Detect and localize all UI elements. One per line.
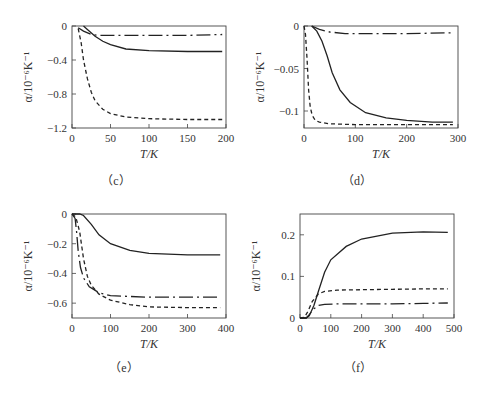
y-tick-label: −0.2 [47, 238, 67, 250]
y-axis-label: α/10⁻⁶K⁻¹ [253, 51, 267, 102]
plot-frame [300, 214, 454, 318]
y-tick-label: 0 [290, 312, 296, 324]
panel-label-e: （e） [109, 361, 138, 375]
y-axis-label: α/10⁻⁶K⁻¹ [249, 240, 263, 291]
y-tick-label: 0 [62, 20, 68, 32]
chart-panel-e: 01002003004000−0.2−0.4−0.6T/Kα/10⁻⁶K⁻¹ [21, 208, 235, 351]
plot-frame [72, 26, 226, 128]
x-tick-label: 150 [179, 132, 196, 144]
x-axis-label: T/K [140, 337, 159, 351]
figure-canvas: 0501001502000−0.4−0.8−1.2T/Kα/10⁻⁶K⁻¹ 01… [0, 0, 483, 394]
series-line-dashed [78, 29, 222, 120]
panel-label-f: （f） [344, 361, 372, 375]
series-line-dash-dot [300, 303, 448, 318]
y-tick-label: −1.2 [47, 122, 67, 134]
x-tick-label: 100 [323, 322, 340, 334]
chart-panel-d: 01002003000−0.05−0.1T/Kα/10⁻⁶K⁻¹ [253, 20, 467, 161]
x-axis-label: T/K [368, 337, 387, 351]
x-tick-label: 100 [347, 132, 364, 144]
x-tick-label: 0 [69, 322, 75, 334]
y-tick-label: −0.1 [279, 105, 299, 117]
x-axis-label: T/K [140, 147, 159, 161]
x-tick-label: 200 [398, 132, 415, 144]
y-tick-label: 0 [62, 208, 68, 220]
y-tick-label: 0.2 [281, 229, 295, 241]
y-tick-label: −0.4 [47, 267, 67, 279]
y-tick-label: −0.6 [47, 297, 67, 309]
y-tick-label: −0.4 [47, 54, 67, 66]
plot-frame [304, 26, 458, 128]
series-line-solid [312, 26, 453, 122]
x-tick-label: 0 [297, 322, 303, 334]
chart-panel-c: 0501001502000−0.4−0.8−1.2T/Kα/10⁻⁶K⁻¹ [21, 20, 235, 161]
x-tick-label: 300 [384, 322, 401, 334]
y-tick-label: 0 [294, 20, 300, 32]
panel-label-d: （d） [342, 174, 372, 188]
x-tick-label: 300 [450, 132, 467, 144]
x-tick-label: 500 [446, 322, 463, 334]
series-line-dash-dot [312, 26, 453, 34]
y-axis-label: α/10⁻⁶K⁻¹ [21, 51, 35, 102]
y-tick-label: 0.1 [281, 270, 295, 282]
x-tick-label: 200 [141, 322, 158, 334]
y-tick-label: −0.8 [47, 88, 67, 100]
x-tick-label: 400 [218, 322, 235, 334]
x-tick-label: 50 [105, 132, 117, 144]
series-line-solid [72, 214, 220, 255]
x-tick-label: 100 [102, 322, 119, 334]
x-tick-label: 200 [353, 322, 370, 334]
x-tick-label: 300 [179, 322, 196, 334]
y-tick-label: −0.05 [274, 63, 300, 75]
chart-panel-f: 010020030040050000.10.2T/Kα/10⁻⁶K⁻¹ [249, 214, 463, 351]
x-tick-label: 0 [69, 132, 75, 144]
x-tick-label: 100 [141, 132, 158, 144]
series-line-solid [84, 26, 223, 52]
series-line-dashed [304, 26, 453, 125]
x-tick-label: 0 [301, 132, 307, 144]
series-line-dash-dot [72, 214, 220, 297]
x-tick-label: 200 [218, 132, 235, 144]
y-axis-label: α/10⁻⁶K⁻¹ [21, 240, 35, 291]
series-line-dash-dot [78, 28, 222, 36]
panel-label-c: （c） [101, 174, 130, 188]
x-axis-label: T/K [372, 147, 391, 161]
x-tick-label: 400 [415, 322, 432, 334]
